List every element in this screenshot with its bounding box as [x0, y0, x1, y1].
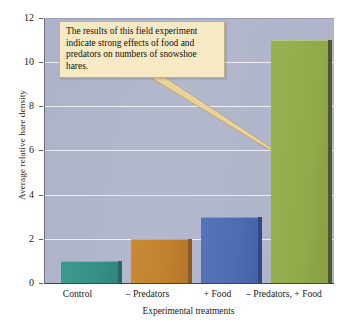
annotation-callout-text: The results of this field experiment ind… [66, 26, 218, 72]
bar-minus-predators-plus-food-side [328, 40, 332, 283]
y-tick-label-12: 12 [8, 13, 34, 23]
y-tick-label-8: 8 [8, 101, 34, 111]
bar-plus-food-top-edge [201, 217, 258, 218]
bar-minus-predators-plus-food[interactable] [271, 40, 332, 283]
bar-control[interactable] [61, 261, 122, 283]
annotation-callout: The results of this field experiment ind… [59, 21, 225, 78]
x-tick-label-minus-predators-plus-food: – Predators, + Food [222, 288, 346, 299]
y-tick-mark-8 [39, 106, 43, 107]
bar-minus-predators-top-edge [131, 239, 188, 240]
bar-plus-food[interactable] [201, 217, 262, 283]
y-tick-mark-2 [39, 239, 43, 240]
bar-minus-predators-plus-food-top-edge [271, 40, 328, 41]
bar-plus-food-side [258, 217, 262, 283]
bar-chart-figure: Average relative hare density 12 10 8 6 … [0, 0, 346, 328]
y-tick-label-2: 2 [8, 234, 34, 244]
bar-control-top-edge [61, 261, 118, 262]
bar-control-side [118, 261, 122, 283]
plot-top-edge [45, 18, 334, 19]
y-tick-label-6: 6 [8, 145, 34, 155]
bar-minus-predators-face [131, 239, 188, 283]
bar-minus-predators[interactable] [131, 239, 192, 283]
y-tick-label-4: 4 [8, 190, 34, 200]
y-tick-label-10: 10 [8, 57, 34, 67]
bar-minus-predators-plus-food-face [271, 40, 328, 283]
y-tick-mark-10 [39, 62, 43, 63]
y-tick-mark-0 [39, 283, 43, 284]
bar-plus-food-face [201, 217, 258, 283]
y-tick-mark-6 [39, 150, 43, 151]
y-tick-label-0: 0 [8, 278, 34, 288]
y-tick-mark-4 [39, 195, 43, 196]
x-axis-title: Experimental treatments [44, 306, 333, 316]
y-tick-mark-12 [39, 18, 43, 19]
bar-minus-predators-side [188, 239, 192, 283]
bar-control-face [61, 261, 118, 283]
